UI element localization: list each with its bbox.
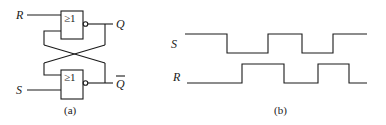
r-waveform	[187, 64, 367, 83]
waveform-label-s: S	[171, 37, 177, 51]
input-label-r: R	[15, 8, 24, 22]
sr-latch-circuit: R ≥1 Q ≥1 Q S (a)	[15, 8, 125, 117]
s-waveform	[185, 34, 367, 53]
top-gate-symbol: ≥1	[64, 12, 76, 24]
input-label-s: S	[16, 83, 22, 97]
diagram-canvas: R ≥1 Q ≥1 Q S (a) S R	[0, 0, 386, 125]
output-label-q: Q	[116, 17, 125, 31]
top-feedback-input-wire	[44, 31, 61, 45]
caption-a: (a)	[64, 104, 77, 117]
bottom-gate-symbol: ≥1	[64, 71, 76, 83]
bottom-inversion-bubble-icon	[83, 81, 88, 86]
waveform-label-r: R	[172, 70, 181, 84]
timing-diagram: S R (b)	[171, 34, 367, 117]
output-label-qbar: Q	[116, 77, 125, 91]
bottom-feedback-input-wire	[44, 63, 61, 75]
caption-b: (b)	[274, 104, 287, 117]
top-inversion-bubble-icon	[83, 22, 88, 27]
